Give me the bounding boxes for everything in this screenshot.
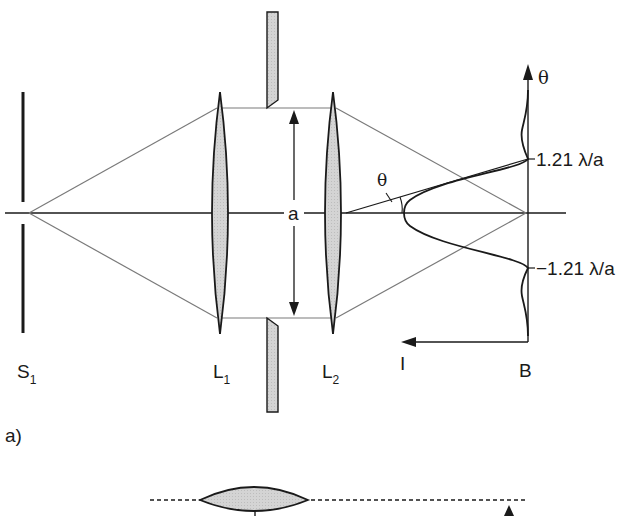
panel-b-arrow-head — [504, 505, 514, 516]
intensity-axis-label: I — [400, 353, 405, 374]
source-slit-label: S1 — [17, 361, 37, 387]
first-minimum-upper-label: 1.21 λ/a — [536, 149, 604, 170]
angle-arc — [400, 197, 402, 213]
angle-label: θ — [377, 170, 387, 190]
panel-b-lens — [200, 487, 308, 511]
lens-1 — [212, 92, 228, 334]
lens1-label: L1 — [213, 361, 231, 387]
aperture-plate — [267, 12, 278, 412]
aperture-width-label: a — [288, 203, 299, 224]
first-minimum-lower-label: −1.21 λ/a — [536, 258, 615, 279]
lens2-label: L2 — [322, 361, 340, 387]
lens-2 — [325, 92, 341, 334]
fraunhofer-diffraction-diagram: a θ θ 1.21 λ/a −1.21 λ/a S1 L1 L2 I B a) — [0, 0, 639, 516]
angle-axis-label: θ — [538, 67, 549, 88]
screen-label: B — [519, 360, 532, 381]
panel-label: a) — [5, 425, 22, 446]
